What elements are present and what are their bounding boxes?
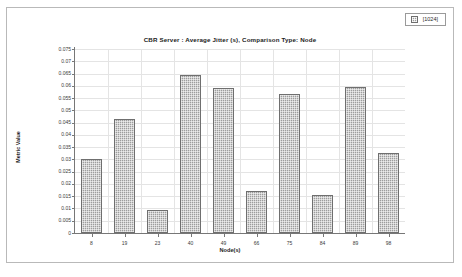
y-tick-label: 0.05 [31,108,71,113]
y-tick-mark [72,86,75,87]
x-tick-mark [290,233,291,237]
x-tick-label: 84 [311,241,335,246]
gridline-vertical [306,49,307,233]
y-tick-label: 0.06 [31,83,71,88]
x-tick-mark [389,233,390,237]
x-tick-label: 98 [377,241,401,246]
y-tick-mark [72,98,75,99]
legend-entry-label: [1024] [423,17,438,23]
x-axis-label: Node(s) [7,247,453,253]
y-tick-label: 0.02 [31,181,71,186]
bar[interactable] [114,119,135,233]
x-tick-mark [92,233,93,237]
y-tick-label: 0.045 [31,120,71,125]
y-tick-mark [72,159,75,160]
legend-swatch-icon [411,16,418,23]
bar[interactable] [213,88,234,233]
x-tick-mark [158,233,159,237]
y-tick-label: 0.03 [31,157,71,162]
bar[interactable] [279,94,300,233]
gridline-vertical [141,49,142,233]
y-tick-label: 0.035 [31,145,71,150]
y-tick-label: 0.065 [31,71,71,76]
y-tick-label: 0.055 [31,96,71,101]
x-tick-label: 19 [113,241,137,246]
x-tick-mark [125,233,126,237]
y-tick-mark [72,49,75,50]
x-tick-label: 89 [344,241,368,246]
chart-title: CBR Server : Average Jitter (s), Compari… [7,36,453,43]
y-tick-mark [72,123,75,124]
y-tick-mark [72,61,75,62]
bar[interactable] [246,191,267,233]
chart-panel: [1024] CBR Server : Average Jitter (s), … [6,7,454,263]
y-tick-label: 0.01 [31,206,71,211]
y-tick-mark [72,208,75,209]
y-tick-mark [72,172,75,173]
y-tick-label: 0.04 [31,132,71,137]
gridline-vertical [207,49,208,233]
x-tick-label: 75 [278,241,302,246]
y-tick-mark [72,110,75,111]
y-tick-mark [72,221,75,222]
gridline-vertical [273,49,274,233]
chart-legend: [1024] [405,13,446,26]
x-tick-label: 49 [212,241,236,246]
bar[interactable] [81,159,102,233]
y-tick-label: 0.07 [31,59,71,64]
x-tick-label: 40 [179,241,203,246]
x-tick-mark [224,233,225,237]
gridline-vertical [108,49,109,233]
y-tick-mark [72,184,75,185]
x-tick-label: 8 [80,241,104,246]
y-tick-mark [72,196,75,197]
bar[interactable] [180,75,201,233]
x-tick-label: 23 [146,241,170,246]
bar[interactable] [378,153,399,233]
gridline-vertical [339,49,340,233]
y-tick-label: 0.025 [31,169,71,174]
x-tick-mark [191,233,192,237]
bar[interactable] [312,195,333,233]
gridline-vertical [240,49,241,233]
x-tick-mark [257,233,258,237]
y-tick-label: 0 [31,231,71,236]
x-tick-mark [356,233,357,237]
y-tick-mark [72,233,75,234]
y-tick-label: 0.005 [31,218,71,223]
y-tick-mark [72,135,75,136]
gridline-vertical [174,49,175,233]
gridline-vertical [372,49,373,233]
y-axis-line [74,47,75,233]
y-tick-mark [72,147,75,148]
y-tick-label: 0.015 [31,194,71,199]
bar[interactable] [345,87,366,233]
x-tick-mark [323,233,324,237]
bar[interactable] [147,210,168,233]
plot-area: 00.0050.010.0150.020.0250.030.0350.040.0… [75,49,405,233]
y-tick-mark [72,74,75,75]
y-tick-label: 0.075 [31,47,71,52]
y-axis-label: Metric Value [15,112,21,182]
x-tick-label: 66 [245,241,269,246]
